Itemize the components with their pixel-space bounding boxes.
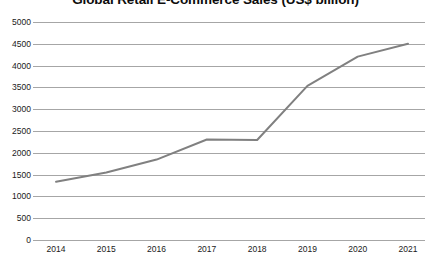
x-axis-tick-label: 2017	[187, 245, 227, 254]
x-axis-tick-label: 2020	[338, 245, 378, 254]
series-layer	[33, 22, 425, 240]
y-axis-tick-label: 2500	[1, 127, 31, 136]
y-axis-tick-label: 5000	[1, 18, 31, 27]
x-axis-tick-label: 2018	[237, 245, 277, 254]
x-axis-tick-labels: 20142015201620172018201920202021	[0, 245, 431, 259]
y-axis-tick-label: 500	[1, 214, 31, 223]
chart-title: Global Retail E-Commerce Sales (US$ bill…	[0, 0, 431, 7]
y-axis-tick-label: 1500	[1, 171, 31, 180]
y-axis-tick-label: 4000	[1, 62, 31, 71]
y-axis-tick-label: 1000	[1, 192, 31, 201]
y-axis-tick-label: 2000	[1, 149, 31, 158]
y-axis-tick-labels: 5000450040003500300025002000150010005000	[0, 0, 31, 260]
x-axis-tick-label: 2014	[36, 245, 76, 254]
series-line-global-retail-ecommerce-sales	[56, 44, 408, 182]
x-axis-tick-label: 2019	[287, 245, 327, 254]
x-axis-tick-label: 2016	[137, 245, 177, 254]
x-axis-tick-label: 2021	[388, 245, 428, 254]
gridline	[33, 240, 425, 241]
y-axis-tick-label: 3500	[1, 83, 31, 92]
plot-area	[33, 22, 425, 240]
x-axis-tick-label: 2015	[86, 245, 126, 254]
y-axis-tick-label: 3000	[1, 105, 31, 114]
y-axis-tick-label: 4500	[1, 40, 31, 49]
y-axis-tick-label: 0	[1, 236, 31, 245]
line-chart: Global Retail E-Commerce Sales (US$ bill…	[0, 0, 431, 260]
